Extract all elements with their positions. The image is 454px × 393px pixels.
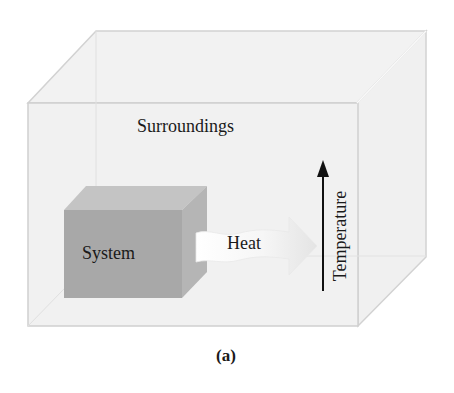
figure-stage: Surroundings System Heat Temperature (a) (0, 0, 454, 393)
diagram-graphics (0, 0, 454, 393)
temperature-label: Temperature (331, 191, 349, 282)
heat-label: Heat (227, 234, 261, 252)
system-label: System (82, 244, 135, 262)
surroundings-label: Surroundings (137, 117, 234, 135)
system-cube (64, 186, 207, 298)
figure-caption: (a) (216, 347, 236, 364)
